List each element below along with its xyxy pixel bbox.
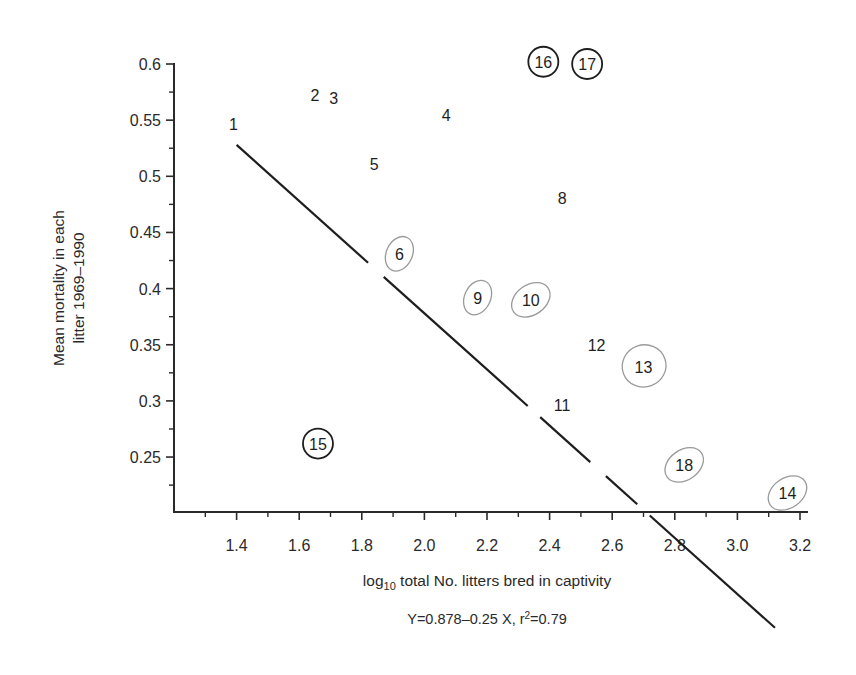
x-tick-label: 3.0 <box>726 537 748 554</box>
data-point-label: 1 <box>229 116 238 133</box>
y-tick-label: 0.4 <box>139 281 161 298</box>
x-axis-title-subscript: 10 <box>384 580 396 592</box>
data-point-label: 15 <box>309 436 327 453</box>
caption-r2-value: =0.79 <box>530 611 567 627</box>
data-point-label: 2 <box>310 87 319 104</box>
x-tick-label: 2.6 <box>601 537 623 554</box>
data-point-label: 11 <box>554 397 571 414</box>
x-tick-label: 3.2 <box>789 537 811 554</box>
data-point-label: 10 <box>522 292 540 309</box>
data-point-label: 12 <box>588 337 606 354</box>
data-point-label: 14 <box>779 485 797 502</box>
y-axis: 0.60.550.50.450.40.350.30.25 <box>130 56 174 512</box>
regression-segment <box>606 476 637 504</box>
regression-segment <box>540 417 590 462</box>
y-axis-title-line-1: Mean mortality in each <box>50 210 67 366</box>
data-point-label: 5 <box>370 156 379 173</box>
data-point-label: 17 <box>578 56 596 73</box>
y-tick-label: 0.5 <box>139 168 161 185</box>
data-point-label: 13 <box>635 359 653 376</box>
point-markers <box>303 47 813 518</box>
data-point-label: 18 <box>675 457 693 474</box>
x-axis-title: log10 total No. litters bred in captivit… <box>363 572 612 592</box>
y-axis-title: Mean mortality in each litter 1969–1990 <box>50 210 87 366</box>
regression-segment <box>650 515 775 627</box>
y-tick-label: 0.35 <box>130 337 161 354</box>
data-point-label: 8 <box>558 190 567 207</box>
caption-equation: Y=0.878–0.25 X, r <box>407 611 524 627</box>
x-axis: 1.41.61.82.02.22.42.62.83.03.2 <box>173 512 811 554</box>
x-tick-label: 2.0 <box>413 537 435 554</box>
x-axis-title-log: log <box>363 572 384 589</box>
data-point-label: 4 <box>442 107 451 124</box>
regression-line <box>237 145 775 628</box>
regression-equation-caption: Y=0.878–0.25 X, r2=0.79 <box>407 610 567 627</box>
y-tick-label: 0.3 <box>139 393 161 410</box>
scatter-chart: 0.60.550.50.450.40.350.30.25 1.41.61.82.… <box>0 0 856 675</box>
y-tick-label: 0.45 <box>130 224 161 241</box>
regression-segment <box>237 145 368 263</box>
y-tick-label: 0.55 <box>130 112 161 129</box>
data-point-label: 16 <box>534 54 552 71</box>
x-tick-label: 2.2 <box>476 537 498 554</box>
x-tick-label: 1.8 <box>351 537 373 554</box>
x-axis-title-rest: total No. litters bred in captivity <box>396 572 612 589</box>
data-point-label: 3 <box>329 90 338 107</box>
data-point-label: 6 <box>395 246 404 263</box>
y-tick-label: 0.25 <box>130 449 161 466</box>
data-points: 12345689101112131415161718 <box>229 54 796 502</box>
x-tick-label: 1.4 <box>225 537 247 554</box>
x-tick-label: 2.4 <box>538 537 560 554</box>
regression-segment <box>384 277 528 406</box>
y-axis-title-line-2: litter 1969–1990 <box>70 232 87 344</box>
data-point-label: 9 <box>473 290 482 307</box>
y-tick-label: 0.6 <box>139 56 161 73</box>
x-tick-label: 1.6 <box>288 537 310 554</box>
